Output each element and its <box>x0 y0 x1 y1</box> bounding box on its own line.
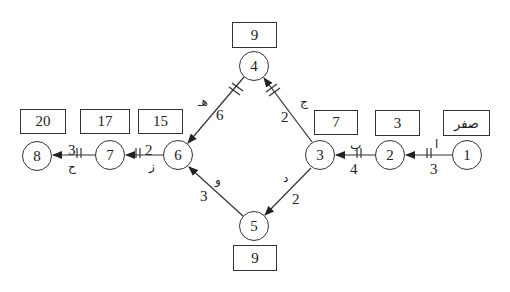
edge-label-activity-6-7: ز <box>149 160 155 172</box>
edge-duration-1-2: 3 <box>430 162 438 177</box>
edge-label-activity-2-3: ب <box>350 139 361 151</box>
edge-duration-3-5: 2 <box>292 192 300 207</box>
time-box-node-1: صفر <box>443 110 490 136</box>
edge-label-activity-3-5: د <box>283 172 288 184</box>
edge-label-activity-1-2: ا <box>435 138 438 150</box>
network-diagram: صفر 3 7 9 9 15 17 20 1 2 3 4 5 6 7 8 ا ب… <box>0 0 510 292</box>
time-box-node-4: 9 <box>232 22 277 48</box>
time-box-node-7: 17 <box>80 109 130 134</box>
edge-duration-7-8: 3 <box>68 143 76 158</box>
node-1: 1 <box>452 140 482 170</box>
edge-label-activity-5-6: و <box>215 174 221 186</box>
node-8: 8 <box>22 141 52 171</box>
node-5: 5 <box>239 211 269 241</box>
time-box-node-8: 20 <box>20 109 66 134</box>
node-3: 3 <box>305 140 335 170</box>
edge-label-activity-7-8: ح <box>68 161 76 173</box>
node-2: 2 <box>375 140 405 170</box>
edge-label-activity-4-6: هـ <box>198 96 208 108</box>
edge-duration-3-4: 2 <box>281 110 289 125</box>
node-6: 6 <box>163 140 193 170</box>
time-box-node-6: 15 <box>138 109 183 134</box>
node-4: 4 <box>239 51 269 81</box>
time-box-node-3: 7 <box>314 110 358 135</box>
node-7: 7 <box>95 140 125 170</box>
time-box-node-5: 9 <box>233 245 277 271</box>
edge-duration-2-3: 4 <box>350 162 358 177</box>
time-box-node-2: 3 <box>375 110 420 136</box>
edge-duration-6-7: 2 <box>145 143 153 158</box>
edge-label-activity-3-4: ج <box>300 96 308 108</box>
edge-duration-4-6: 6 <box>216 108 224 123</box>
edge-duration-5-6: 3 <box>200 189 208 204</box>
